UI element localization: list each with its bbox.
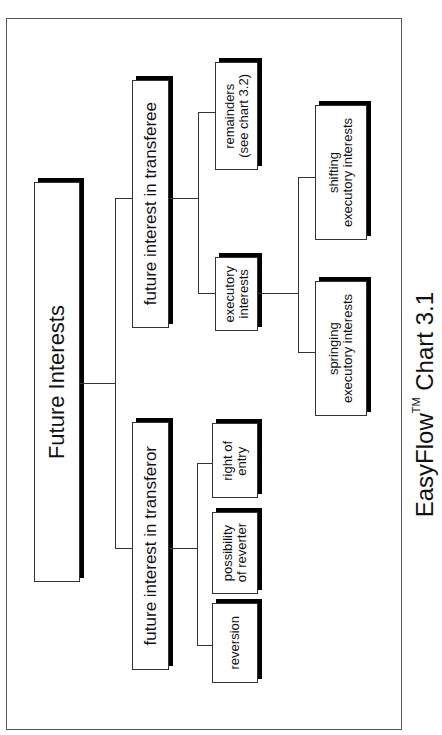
connector-to-right-of-entry xyxy=(197,463,212,464)
connector-to-transferee xyxy=(115,198,132,199)
connector-to-transferor xyxy=(115,548,132,549)
label-line2: entry xyxy=(234,446,249,475)
root-node-label: Future Interests xyxy=(45,305,68,459)
node-shifting-executory-interests: shifting executory interests xyxy=(315,105,367,240)
node-label: possibility of reverter xyxy=(221,523,248,582)
label-line2: executory interests xyxy=(340,118,355,227)
connector-executory-trunk xyxy=(298,177,299,353)
connector-to-executory xyxy=(198,293,215,294)
connector-transferor-out xyxy=(169,548,198,549)
node-executory-interests: executory interests xyxy=(215,257,258,331)
connector-trunk-level1 xyxy=(115,198,116,549)
node-future-interest-in-transferor: future interest in transferor xyxy=(132,422,169,670)
node-possibility-of-reverter: possibility of reverter xyxy=(212,512,258,594)
node-label: future interest in transferee xyxy=(142,102,160,305)
label-line2: executory interests xyxy=(340,294,355,403)
label-line2: of reverter xyxy=(234,523,249,582)
node-label: executory interests xyxy=(223,266,250,322)
node-label: future interest in transferor xyxy=(142,446,160,645)
label-line2: interests xyxy=(236,269,251,318)
label-line1: executory xyxy=(222,266,237,322)
node-label: springing executory interests xyxy=(327,294,354,403)
node-reversion: reversion xyxy=(212,603,258,683)
connector-to-remainders xyxy=(198,112,215,113)
node-label: right of entry xyxy=(221,441,248,481)
connector-root xyxy=(80,383,115,384)
label-line1: remainders xyxy=(222,83,237,148)
chart-caption: EasyFlowTM Chart 3.1 xyxy=(404,255,442,555)
connector-executory-out xyxy=(258,293,298,294)
connector-transferee-trunk xyxy=(198,112,199,294)
label-line2: (see chart 3.2) xyxy=(236,74,251,158)
caption-trademark: TM xyxy=(410,398,422,414)
connector-to-shifting xyxy=(298,177,315,178)
caption-prefix: EasyFlow xyxy=(411,414,438,518)
caption-suffix: Chart 3.1 xyxy=(411,292,438,397)
node-label: reversion xyxy=(228,616,242,669)
node-remainders: remainders (see chart 3.2) xyxy=(215,62,258,170)
node-right-of-entry: right of entry xyxy=(212,423,258,498)
node-springing-executory-interests: springing executory interests xyxy=(315,281,367,416)
connector-to-springing xyxy=(298,352,315,353)
root-node-future-interests: Future Interests xyxy=(34,182,80,582)
connector-transferor-trunk xyxy=(197,463,198,646)
node-label: remainders (see chart 3.2) xyxy=(223,74,250,158)
caption-text: EasyFlowTM Chart 3.1 xyxy=(410,292,439,517)
node-label: shifting executory interests xyxy=(327,118,354,227)
connector-to-reversion xyxy=(197,645,212,646)
connector-transferee-out xyxy=(169,198,199,199)
node-future-interest-in-transferee: future interest in transferee xyxy=(132,80,169,328)
